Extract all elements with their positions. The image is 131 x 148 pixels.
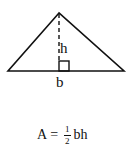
base-label: b bbox=[56, 75, 64, 90]
formula-fraction: 1 2 bbox=[64, 125, 71, 146]
area-formula: A = 1 2 bh bbox=[37, 122, 88, 148]
formula-lhs: A bbox=[37, 127, 47, 143]
right-angle-marker bbox=[59, 61, 69, 71]
formula-variables: bh bbox=[74, 127, 88, 143]
formula-equals: = bbox=[50, 127, 58, 143]
fraction-numerator: 1 bbox=[64, 125, 71, 136]
triangle-area-diagram: h b A = 1 2 bh bbox=[0, 0, 131, 148]
height-label: h bbox=[60, 41, 68, 56]
fraction-denominator: 2 bbox=[65, 136, 70, 146]
